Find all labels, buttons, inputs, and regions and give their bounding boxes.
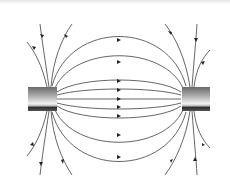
magnetic-field-diagram	[0, 0, 230, 179]
left-magnet	[28, 87, 57, 111]
right-magnet	[182, 87, 210, 111]
